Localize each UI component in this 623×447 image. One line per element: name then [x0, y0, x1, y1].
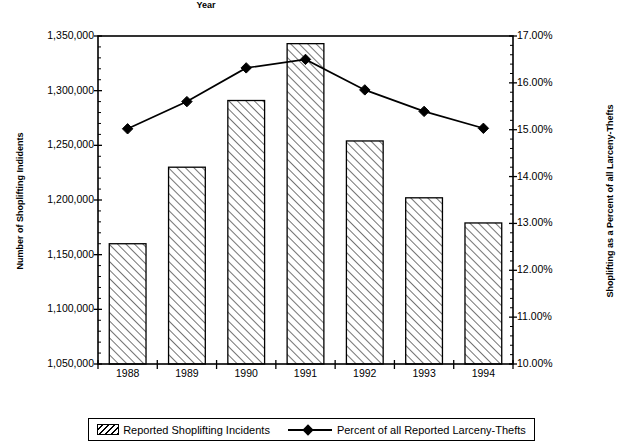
- x-tick-1991: 1991: [276, 368, 336, 379]
- left-tick-1350000: 1,350,000: [20, 30, 94, 41]
- left-tick-1300000: 1,300,000: [20, 85, 94, 96]
- left-tick-1250000: 1,250,000: [20, 139, 94, 150]
- right-tick-15: 15.00%: [517, 124, 591, 135]
- hatched-bar-swatch-icon: [97, 424, 119, 435]
- bar-1988: [109, 244, 146, 364]
- x-tick-1992: 1992: [335, 368, 395, 379]
- x-tick-1990: 1990: [216, 368, 276, 379]
- bar-1990: [228, 101, 265, 364]
- legend-label-bars: Reported Shoplifting Incidents: [123, 424, 270, 436]
- left-tick-1050000: 1,050,000: [20, 358, 94, 369]
- left-tick-1200000: 1,200,000: [20, 194, 94, 205]
- right-tick-17: 17.00%: [517, 30, 591, 41]
- bar-1991: [287, 44, 324, 364]
- x-tick-1988: 1988: [98, 368, 158, 379]
- left-tick-1150000: 1,150,000: [20, 249, 94, 260]
- x-tick-1989: 1989: [157, 368, 217, 379]
- x-tick-1993: 1993: [394, 368, 454, 379]
- right-tick-11: 11.00%: [517, 311, 591, 322]
- legend-item-line: Percent of all Reported Larceny-Thefts: [270, 424, 526, 436]
- legend-item-bars: Reported Shoplifting Incidents: [97, 424, 270, 436]
- right-tick-13: 13.00%: [517, 217, 591, 228]
- left-tick-1100000: 1,100,000: [20, 303, 94, 314]
- bar-1993: [406, 198, 443, 364]
- bar-1992: [346, 141, 383, 364]
- line-diamond-swatch-icon: [288, 424, 332, 436]
- x-tick-1994: 1994: [453, 368, 513, 379]
- right-tick-14: 14.00%: [517, 171, 591, 182]
- shoplifting-incidents-chart: Number of Shoplifting Indidents Shoplift…: [0, 0, 623, 447]
- right-tick-10: 10.00%: [517, 358, 591, 369]
- right-tick-16: 16.00%: [517, 77, 591, 88]
- legend-label-line: Percent of all Reported Larceny-Thefts: [337, 424, 526, 436]
- right-tick-12: 12.00%: [517, 264, 591, 275]
- chart-legend: Reported Shoplifting Incidents Percent o…: [88, 418, 535, 441]
- bar-1994: [465, 223, 502, 364]
- bar-1989: [169, 167, 206, 364]
